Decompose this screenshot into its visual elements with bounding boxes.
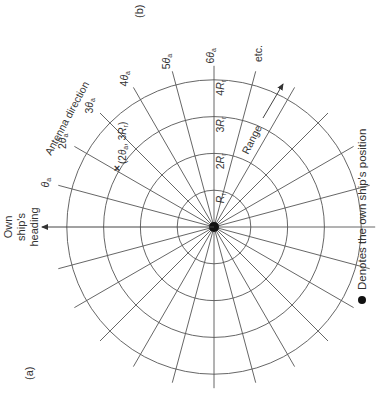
bearing-spoke xyxy=(58,185,214,227)
heading-label-line-2: ship's xyxy=(15,213,27,241)
bearing-spoke xyxy=(214,227,370,269)
etc-label: etc. xyxy=(252,45,264,62)
heading-label: Own ship's heading xyxy=(2,207,40,246)
bearing-spoke xyxy=(214,227,256,383)
bearing-spoke xyxy=(74,146,214,227)
range-label: Rr xyxy=(214,193,227,204)
bearing-spoke xyxy=(214,227,354,308)
bearing-spoke xyxy=(58,227,214,269)
bearing-spoke xyxy=(214,227,328,341)
angle-label: 5θa xyxy=(160,54,173,70)
bearing-spoke xyxy=(172,227,214,383)
bearing-spoke xyxy=(133,87,214,227)
legend-dot-icon xyxy=(358,296,366,304)
bearing-spoke xyxy=(214,185,370,227)
panel-a-label: (a) xyxy=(23,367,35,380)
range-label: 3Rr xyxy=(214,116,227,132)
point-label: (2θa, 3Rr) xyxy=(117,122,129,164)
angle-label: θa xyxy=(39,178,52,188)
range-label: 4Rr xyxy=(214,79,227,95)
heading-label-line-3: heading xyxy=(28,207,40,246)
legend-text: Denotes the own ship's position xyxy=(356,129,368,290)
bearing-spoke xyxy=(214,146,354,227)
angle-label: 6θa xyxy=(204,48,217,64)
bearing-spoke xyxy=(133,227,214,367)
bearing-spoke xyxy=(172,71,214,227)
bearing-spoke xyxy=(214,87,295,227)
range-label: 2Rr xyxy=(214,153,227,169)
angle-label: 4θa xyxy=(118,71,131,87)
range-label: Range xyxy=(239,123,264,156)
bearing-spoke xyxy=(74,227,214,308)
polar-grid-figure: Own ship's heading (a) (b) Antenna direc… xyxy=(0,0,376,399)
bearing-spoke xyxy=(100,227,214,341)
angle-label: 3θa xyxy=(83,98,96,114)
heading-label-line-1: Own xyxy=(2,216,14,239)
bearing-spoke xyxy=(214,113,328,227)
bearing-spoke xyxy=(214,227,295,367)
panel-b-label: (b) xyxy=(133,5,145,18)
legend: Denotes the own ship's position xyxy=(356,129,368,304)
